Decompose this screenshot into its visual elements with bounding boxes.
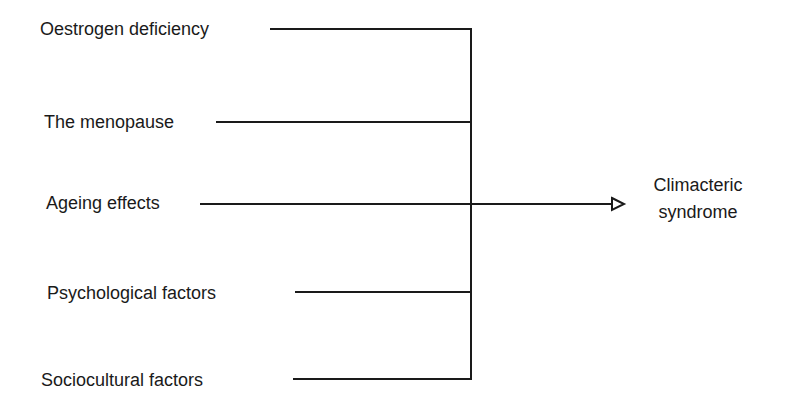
arrowhead-icon: [612, 198, 624, 210]
outcome-line2: syndrome: [628, 199, 768, 226]
outcome-label: Climacteric syndrome: [628, 172, 768, 226]
outcome-line1: Climacteric: [628, 172, 768, 199]
